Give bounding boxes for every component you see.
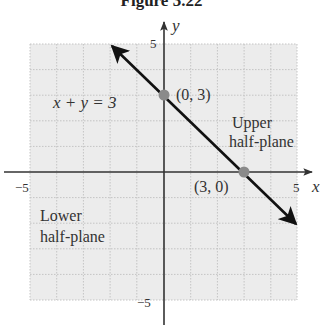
lower-label-line1: Lower xyxy=(40,205,105,226)
lower-label-line2: half-plane xyxy=(40,226,105,247)
point-0-3-label: (0, 3) xyxy=(176,86,211,104)
upper-label-line1: Upper xyxy=(232,113,294,132)
coordinate-plane xyxy=(0,0,323,327)
equation-label: x + y = 3 xyxy=(53,93,117,113)
point-0-3 xyxy=(159,90,170,101)
tick-y-5: 5 xyxy=(150,36,157,52)
y-axis-label: y xyxy=(172,16,180,36)
point-3-0 xyxy=(239,167,250,178)
upper-half-plane-label: Upper half-plane xyxy=(232,113,294,151)
point-3-0-label: (3, 0) xyxy=(194,178,229,196)
tick-x-5: 5 xyxy=(293,180,300,196)
tick-x-neg5: −5 xyxy=(15,180,29,196)
upper-label-line2: half-plane xyxy=(229,132,294,151)
x-axis-label: x xyxy=(312,177,320,197)
figure: Figure 3.22 xyxy=(0,0,323,327)
lower-half-plane-label: Lower half-plane xyxy=(40,205,105,247)
tick-y-neg5: −5 xyxy=(137,295,151,311)
